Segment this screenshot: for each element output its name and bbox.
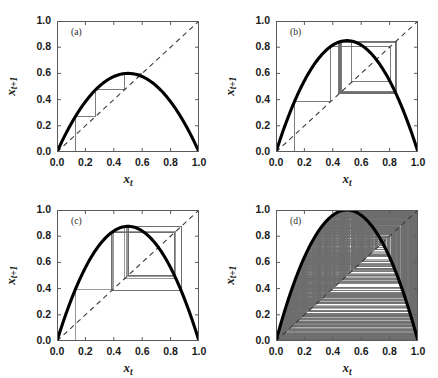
y-tick-label: 0.8 (234, 229, 270, 241)
y-axis-label-d: xt+1 (222, 225, 239, 325)
plot-area-d (276, 210, 418, 341)
panel-label-d: (d) (290, 216, 301, 226)
x-tick-label: 1.0 (400, 345, 436, 357)
y-tick-label: 0.2 (234, 308, 270, 320)
y-tick-label: 1.0 (234, 203, 270, 215)
x-axis-label-d: xt (317, 360, 377, 377)
figure-logistic-map-cobwebs: (a)0.00.20.40.60.81.00.00.20.40.60.81.0x… (0, 0, 438, 378)
panel-d: (d)0.00.20.40.60.81.00.00.20.40.60.81.0x… (0, 0, 438, 378)
y-tick-label: 0.6 (234, 255, 270, 267)
y-tick-label: 0.4 (234, 282, 270, 294)
